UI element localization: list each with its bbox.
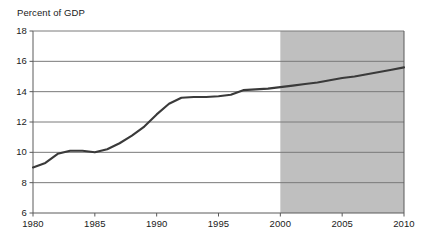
xtick-label-2010: 2010 [384,219,422,229]
xtick-label-1995: 1995 [199,219,239,229]
xtick-label-1990: 1990 [137,219,177,229]
ytick-label-14: 14 [9,87,27,97]
ytick-label-6: 6 [9,208,27,218]
xtick-label-2005: 2005 [322,219,362,229]
ytick-label-8: 8 [9,178,27,188]
xtick-label-1985: 1985 [75,219,115,229]
ytick-label-16: 16 [9,56,27,66]
xtick-label-2000: 2000 [260,219,300,229]
ytick-label-10: 10 [9,147,27,157]
ytick-label-18: 18 [9,26,27,36]
ytick-label-12: 12 [9,117,27,127]
plot-area [0,0,422,252]
xtick-label-1980: 1980 [13,219,53,229]
chart-figure: Percent of GDP 181614121086 198019851990… [0,0,422,252]
